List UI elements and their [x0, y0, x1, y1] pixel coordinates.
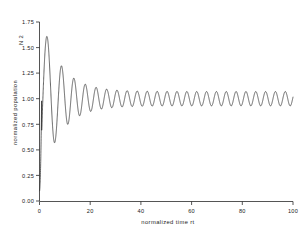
- y-tick-label-0-50: 0.50: [22, 147, 34, 153]
- x-tick-label-60: 60: [188, 208, 195, 214]
- y-tick-label-1-25: 1.25: [22, 70, 34, 76]
- x-tick-label-0: 0: [38, 208, 41, 214]
- x-tick-label-100: 100: [288, 208, 298, 214]
- chart-figure: 1.75 1.50 1.25 1.00 0.75 0.50 0.25 0.00 …: [0, 0, 308, 233]
- y-tick-label-0-25: 0.25: [22, 173, 34, 179]
- y-axis-title: normalized population: [12, 80, 18, 145]
- x-axis-title: normalized time rt: [141, 219, 194, 225]
- y-tick-label-1-75: 1.75: [22, 19, 34, 25]
- series-marker-n2: N 2: [18, 35, 24, 45]
- x-tick-label-40: 40: [138, 208, 145, 214]
- plot-background: [0, 0, 308, 233]
- x-tick-label-80: 80: [239, 208, 246, 214]
- y-tick-label-1-00: 1.00: [22, 96, 34, 102]
- y-tick-label-0-75: 0.75: [22, 122, 34, 128]
- damped-oscillation-plot: 1.75 1.50 1.25 1.00 0.75 0.50 0.25 0.00 …: [0, 0, 308, 233]
- y-tick-label-0-00: 0.00: [22, 198, 34, 204]
- x-tick-label-20: 20: [87, 208, 94, 214]
